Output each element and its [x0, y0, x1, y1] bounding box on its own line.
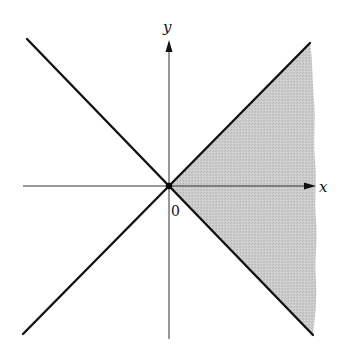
y-axis-label: y [162, 18, 172, 36]
y-axis-arrow-icon [166, 40, 173, 52]
origin-point [166, 183, 172, 189]
origin-label: 0 [171, 203, 180, 219]
region-diagram: x y 0 [0, 0, 340, 356]
x-axis-label: x [319, 178, 328, 196]
shaded-region [169, 43, 317, 335]
